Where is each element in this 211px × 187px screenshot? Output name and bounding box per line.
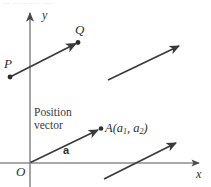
vector-copy-lower-right [104, 143, 176, 179]
point-a-subscript-2: 2 [140, 127, 144, 136]
point-q-label: Q [75, 23, 84, 36]
point-a-label-mid: , a [127, 121, 140, 135]
y-axis-label: y [42, 9, 47, 21]
vector-diagram-figure: ·· ···· ··· ··· y x O P Q A(a1, [0, 0, 211, 187]
point-a-dot [99, 126, 104, 131]
point-p-label: P [4, 57, 12, 70]
point-p-dot [8, 75, 13, 80]
position-vector-caption-line-1: Position [34, 106, 96, 119]
position-vector-caption: Position vector [34, 106, 96, 132]
vector-pq-arrow [11, 44, 76, 77]
vector-a-label: a [63, 145, 69, 156]
point-a-label: A(a1, a2) [105, 122, 148, 135]
vector-copy-upper-right [108, 46, 179, 80]
point-a-label-close: ) [144, 121, 148, 135]
point-a-label-head: A(a [105, 121, 123, 135]
origin-label: O [16, 165, 25, 178]
point-q-dot [76, 40, 81, 45]
point-a-subscript-1: 1 [123, 127, 127, 136]
vector-diagram-canvas [0, 0, 211, 187]
position-vector-caption-line-2: vector [34, 119, 96, 132]
x-axis-label: x [196, 168, 201, 180]
